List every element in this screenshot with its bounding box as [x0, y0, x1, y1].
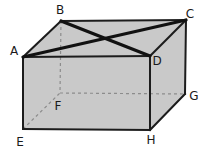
vertex-label-D: D	[152, 54, 161, 68]
cuboid-diagram: ABCDEFGH	[0, 0, 208, 157]
vertex-label-B: B	[56, 3, 64, 17]
edge-BC	[61, 20, 186, 21]
cuboid-diagram-canvas: ABCDEFGH	[0, 0, 208, 157]
edge-AD	[23, 56, 150, 57]
vertex-label-C: C	[186, 7, 194, 21]
vertex-label-F: F	[55, 99, 62, 113]
vertex-label-G: G	[189, 89, 198, 103]
vertex-label-H: H	[146, 133, 155, 147]
edge-CG	[185, 20, 186, 94]
vertex-label-A: A	[10, 44, 19, 58]
edge-EH	[23, 129, 150, 130]
vertex-label-E: E	[16, 135, 24, 149]
